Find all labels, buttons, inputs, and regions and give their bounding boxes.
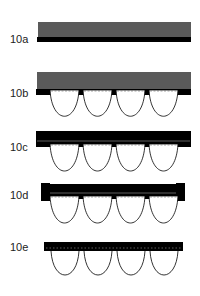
figure-10a (37, 22, 191, 42)
figure-10b (36, 72, 191, 116)
figure-10c (36, 131, 191, 171)
figure-10e (44, 242, 183, 275)
figure-10d (41, 183, 185, 223)
diagram-canvas (0, 0, 200, 296)
